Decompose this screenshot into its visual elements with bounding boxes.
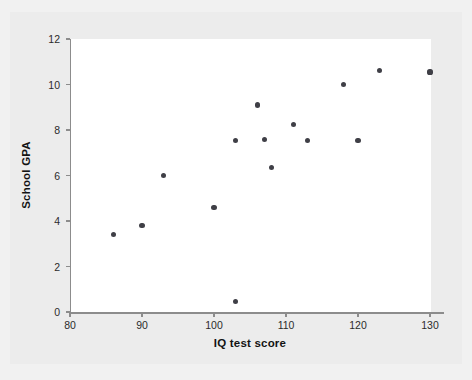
y-axis-tick-label: 6 [38,170,60,182]
x-axis-tick-label: 100 [205,319,223,331]
y-axis-tick [66,220,71,221]
data-point [262,137,267,142]
data-point [233,138,238,143]
y-axis-title: School GPA [20,141,32,209]
y-axis-tick [66,175,71,176]
data-point [111,232,116,237]
y-axis-tick [66,266,71,267]
y-axis-tick [66,84,71,85]
y-axis-tick-label: 0 [38,306,60,318]
scatter-plot-figure: School GPA IQ test score 024681012809010… [0,0,472,380]
data-point [355,138,360,143]
plot-area [70,39,431,313]
data-point [427,69,432,74]
y-axis-tick-label: 8 [38,124,60,136]
data-point [305,138,310,143]
y-axis-tick-label: 10 [38,79,60,91]
y-axis-tick-label: 2 [38,261,60,273]
y-axis-tick [66,129,71,130]
x-axis-tick-label: 80 [64,319,76,331]
x-axis-tick-label: 90 [136,319,148,331]
data-point [255,102,260,107]
data-point [291,122,296,127]
x-axis-tick-label: 120 [349,319,367,331]
x-axis-line [70,312,444,313]
data-point [139,223,144,228]
y-axis-tick-label: 4 [38,215,60,227]
x-axis-tick-label: 110 [278,319,295,331]
data-point [211,205,216,210]
y-axis-tick-label: 12 [38,33,60,45]
x-axis-title: IQ test score [214,337,286,349]
x-axis-tick-label: 130 [421,319,439,331]
y-axis-tick [66,38,71,39]
